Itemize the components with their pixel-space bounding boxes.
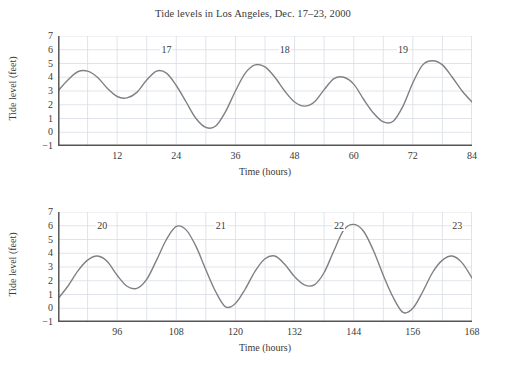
y-tick-label: 7 (48, 207, 53, 217)
y-tick-label: 6 (48, 45, 53, 55)
y-axis-label-bottom: Tide level (feet) (7, 205, 18, 325)
x-tick-label: 108 (169, 327, 184, 337)
chart-panel-bottom: Tide level (feet) Time (hours) 76543210−… (0, 202, 506, 372)
y-tick-label: 0 (48, 127, 53, 137)
x-axis-label-bottom: Time (hours) (58, 342, 472, 353)
y-tick-label: 5 (48, 235, 53, 245)
y-axis-label-top: Tide level (feet) (7, 29, 18, 149)
day-annotation: 20 (96, 221, 108, 231)
x-tick-label: 12 (112, 151, 122, 161)
figure-title: Tide levels in Los Angeles, Dec. 17–23, … (0, 8, 506, 19)
x-tick-label: 144 (346, 327, 361, 337)
tide-curve-svg-top (58, 36, 472, 146)
day-annotation: 19 (397, 45, 409, 55)
y-tick-label: 0 (48, 303, 53, 313)
day-annotation: 22 (333, 221, 345, 231)
x-tick-label: 36 (230, 151, 240, 161)
x-tick-label: 60 (349, 151, 359, 161)
plot-area-bottom: Tide level (feet) Time (hours) 76543210−… (58, 212, 472, 322)
y-tick-label: 2 (48, 276, 53, 286)
day-annotation: 23 (451, 221, 463, 231)
x-tick-label: 120 (228, 327, 243, 337)
day-annotation: 17 (160, 45, 172, 55)
x-tick-label: 168 (465, 327, 480, 337)
y-tick-label: −1 (42, 141, 53, 151)
y-tick-label: 3 (48, 86, 53, 96)
y-tick-label: 3 (48, 262, 53, 272)
y-tick-label: −1 (42, 317, 53, 327)
y-tick-label: 1 (48, 290, 53, 300)
x-axis-label-top: Time (hours) (58, 166, 472, 177)
y-tick-label: 4 (48, 72, 53, 82)
y-tick-label: 2 (48, 100, 53, 110)
x-tick-label: 156 (405, 327, 420, 337)
y-tick-label: 4 (48, 248, 53, 258)
chart-panel-top: Tide level (feet) Time (hours) 76543210−… (0, 22, 506, 182)
day-annotation: 21 (215, 221, 227, 231)
tide-curve-svg-bottom (58, 212, 472, 322)
y-tick-label: 5 (48, 59, 53, 69)
y-tick-label: 6 (48, 221, 53, 231)
x-tick-label: 84 (467, 151, 477, 161)
y-tick-label: 1 (48, 114, 53, 124)
x-tick-label: 96 (112, 327, 122, 337)
x-tick-label: 24 (171, 151, 181, 161)
y-tick-label: 7 (48, 31, 53, 41)
x-tick-label: 132 (287, 327, 302, 337)
x-tick-label: 48 (290, 151, 300, 161)
tide-level-figure: Tide levels in Los Angeles, Dec. 17–23, … (0, 0, 506, 372)
x-tick-label: 72 (408, 151, 418, 161)
day-annotation: 18 (279, 45, 291, 55)
plot-area-top: Tide level (feet) Time (hours) 76543210−… (58, 36, 472, 146)
